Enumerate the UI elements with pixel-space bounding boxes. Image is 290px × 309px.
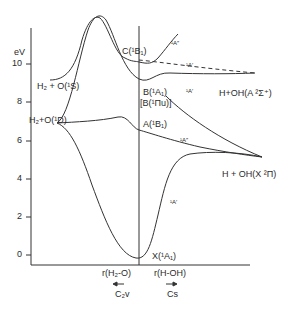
label-x-state: X(¹A₁): [152, 252, 176, 261]
tick-8: 8: [6, 97, 22, 106]
label-h2-o1s: H₂ + O(¹S): [37, 82, 79, 91]
xlabel-right: r(H-OH): [154, 269, 186, 278]
tag-app-c: ¹A″: [171, 40, 179, 46]
label-a-state: A(¹B₁): [143, 120, 167, 129]
tick-6: 6: [6, 136, 22, 145]
y-unit-label: eV: [14, 48, 25, 57]
label-c-state: C(¹B₁): [122, 47, 147, 56]
tag-ap-dashed: ¹A′: [186, 62, 193, 68]
tag-ap-b: ¹A′: [186, 88, 193, 94]
label-b-state: B(¹A₁): [143, 88, 167, 97]
tick-10: 10: [6, 59, 22, 68]
curve-b-pi: [166, 96, 262, 157]
symmetry-cs: Cs: [167, 290, 178, 299]
tick-4: 4: [6, 174, 22, 183]
tag-ap-x: ¹A′: [170, 199, 177, 205]
tick-0: 0: [6, 250, 22, 259]
label-h2-o1d: H₂+O(¹D): [29, 116, 67, 125]
tick-2: 2: [6, 212, 22, 221]
curve-c-dashed: [139, 60, 255, 73]
label-b-pi: [B(¹Πu)]: [140, 99, 172, 108]
symmetry-c2v: C₂v: [115, 290, 130, 299]
label-oh-x: H + OH(X ²Π): [222, 170, 276, 179]
y-ticks: [26, 64, 31, 255]
label-oh-a: H+OH(A ²Σ⁺): [219, 89, 272, 98]
curve-c-state: [50, 17, 178, 80]
xlabel-left: r(H₂-O): [102, 269, 131, 278]
curve-x-state: [57, 123, 262, 258]
tag-app-a: ¹A″: [180, 137, 188, 143]
